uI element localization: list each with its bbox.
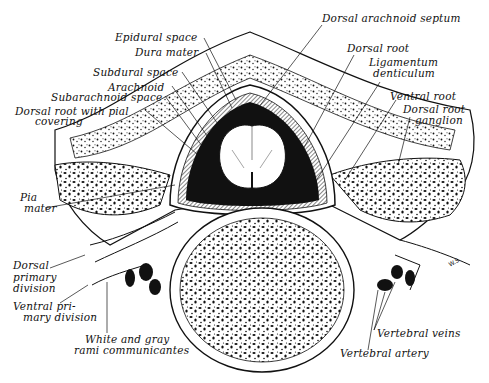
label-ligamentum-2: denticulum [373, 68, 435, 79]
label-subdural-space: Subdural space [93, 67, 178, 78]
label-rami-2: rami communicantes [74, 345, 189, 356]
label-drg-2: ganglion [415, 115, 463, 126]
label-dura-mater: Dura mater [135, 47, 198, 58]
label-dorsal-primary-1: Dorsal [13, 260, 49, 271]
label-dorsal-arachnoid-septum: Dorsal arachnoid septum [322, 13, 461, 24]
label-dorsal-root: Dorsal root [347, 43, 409, 54]
label-subarachnoid-space: Subarachnoid space [51, 92, 162, 103]
label-dorsal-primary-3: division [13, 283, 56, 294]
label-dorsal-root-pial-2: covering [35, 116, 83, 127]
anatomy-figure: Epidural space Dura mater Subdural space… [0, 0, 489, 383]
label-ventral-primary-2: mary division [23, 312, 97, 323]
label-ventral-root: Ventral root [390, 91, 456, 102]
label-pia-2: mater [24, 203, 57, 214]
label-vertebral-veins: Vertebral veins [377, 328, 461, 339]
label-vertebral-artery: Vertebral artery [340, 348, 429, 359]
label-epidural-space: Epidural space [115, 32, 197, 43]
